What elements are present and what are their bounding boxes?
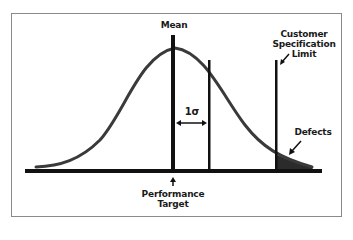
- spec-limit-label: Customer Specification Limit: [272, 29, 336, 59]
- spec-limit-line: [275, 60, 278, 172]
- target-label-line2: Target: [138, 199, 208, 209]
- mean-line: [171, 35, 175, 172]
- mean-label: Mean: [158, 20, 190, 30]
- sigma-label: 1σ: [182, 107, 202, 117]
- defects-arrow-icon: [289, 141, 301, 155]
- spec-limit-label-line3: Limit: [272, 49, 336, 59]
- spec-limit-label-line1: Customer: [272, 29, 336, 39]
- target-arrow-icon: [170, 177, 176, 186]
- sigma-double-arrow-icon: [176, 120, 207, 126]
- sigma-line: [208, 60, 211, 172]
- performance-target-label: Performance Target: [138, 189, 208, 209]
- defects-label: Defects: [293, 127, 333, 137]
- target-label-line1: Performance: [138, 189, 208, 199]
- spec-limit-label-line2: Specification: [272, 39, 336, 49]
